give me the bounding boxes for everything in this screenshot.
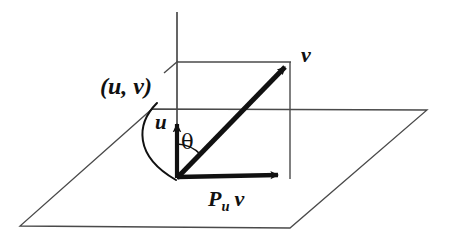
vector-projection-figure: (u, v) u θ v Puv	[0, 0, 449, 246]
unit-vector-u-label: u	[155, 112, 167, 133]
projection-subscript: u	[221, 198, 229, 214]
projection-base-letter: P	[208, 186, 221, 211]
inner-product-label: (u, v)	[100, 74, 152, 98]
vector-v-arrow	[177, 67, 285, 178]
theta-angle-label: θ	[181, 132, 194, 153]
construction-stub-diagonal	[164, 61, 178, 73]
projection-label: Puv	[208, 188, 244, 213]
projection-operand-letter: v	[235, 186, 245, 211]
vector-projection-arrow	[177, 175, 278, 177]
vector-v-label: v	[301, 44, 311, 66]
